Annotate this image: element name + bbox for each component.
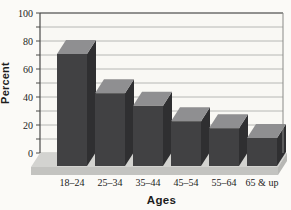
platform-front	[31, 167, 278, 175]
bar-front	[57, 54, 87, 166]
category-label: 45–54	[174, 177, 199, 188]
category-label: 55–64	[212, 177, 237, 188]
y-tick-label: 20	[23, 120, 33, 131]
bar-front	[171, 121, 201, 166]
y-tick-label: 80	[23, 36, 33, 47]
category-label: 25–34	[98, 177, 123, 188]
bar-front	[133, 106, 163, 166]
bar-side	[87, 40, 96, 166]
bar-front	[209, 128, 239, 166]
y-tick-label: 0	[28, 148, 33, 159]
bar-chart-figure: 02040608010018–2425–3435–4445–5455–6465 …	[0, 0, 291, 210]
bar-front	[95, 93, 125, 166]
y-axis-title: Percent	[0, 48, 13, 118]
y-tick-label: 40	[23, 92, 33, 103]
category-label: 35–44	[136, 177, 161, 188]
bar-front	[247, 138, 277, 166]
x-axis-title: Ages	[40, 194, 283, 206]
category-label: 18–24	[60, 177, 85, 188]
category-label: 65 & up	[246, 177, 279, 188]
y-tick-label: 100	[18, 8, 33, 19]
y-tick-label: 60	[23, 64, 33, 75]
chart-svg: 02040608010018–2425–3435–4445–5455–6465 …	[0, 0, 291, 210]
bar-side	[125, 79, 134, 166]
